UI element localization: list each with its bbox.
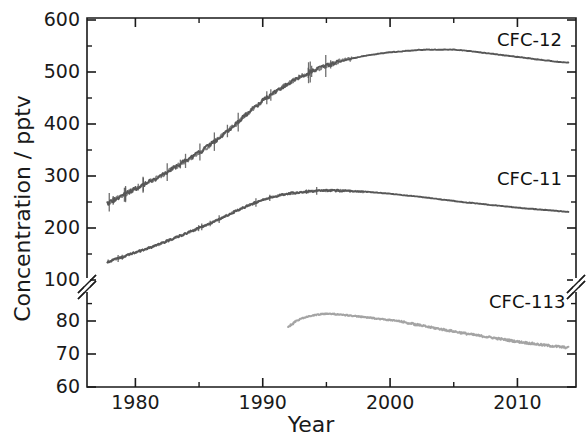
y-tick-label-60: 60 bbox=[20, 377, 80, 396]
series-label-cfc-113: CFC-113 bbox=[489, 291, 565, 312]
y-tick-label-600: 600 bbox=[20, 10, 80, 29]
x-axis-title: Year bbox=[0, 412, 586, 437]
series-cfc-113 bbox=[288, 313, 568, 348]
axis-ticks bbox=[87, 18, 576, 387]
chart-figure: 600500400300200100807060 198019902000201… bbox=[0, 0, 586, 441]
x-tick-label-2010: 2010 bbox=[477, 391, 557, 413]
series-label-cfc-12: CFC-12 bbox=[497, 29, 562, 50]
series-cfc-11 bbox=[107, 187, 568, 264]
x-tick-label-2000: 2000 bbox=[350, 391, 430, 413]
chart-canvas bbox=[0, 0, 586, 441]
x-tick-label-1980: 1980 bbox=[95, 391, 175, 413]
x-tick-label-1990: 1990 bbox=[223, 391, 303, 413]
x-axis-title-text: Year bbox=[252, 412, 335, 437]
plot-frame bbox=[87, 18, 576, 387]
y-axis-title: Concentration / pptv bbox=[10, 59, 35, 359]
series-label-cfc-11: CFC-11 bbox=[497, 168, 562, 189]
